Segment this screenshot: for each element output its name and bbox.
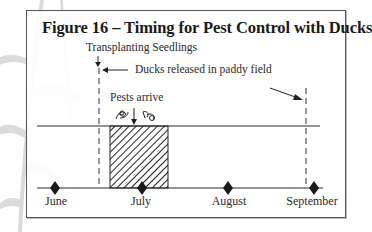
month-label-june: June: [45, 194, 67, 209]
transplanting-arrow-icon: [95, 56, 101, 67]
ducks-right-arrow-icon: [270, 88, 303, 100]
pest-insect-icon: [116, 111, 128, 119]
month-label-september: September: [286, 194, 337, 209]
august-marker-icon: [223, 181, 233, 195]
month-label-august: August: [212, 194, 247, 209]
pest-period-hatched-area: [110, 126, 168, 188]
pest-insect-icon: [143, 111, 155, 120]
september-marker-icon: [309, 181, 319, 195]
june-marker-icon: [50, 181, 60, 195]
ducks-left-arrow-icon: [102, 67, 128, 73]
pests-arrive-arrow-icon: [131, 108, 137, 125]
month-label-july: July: [131, 194, 151, 209]
